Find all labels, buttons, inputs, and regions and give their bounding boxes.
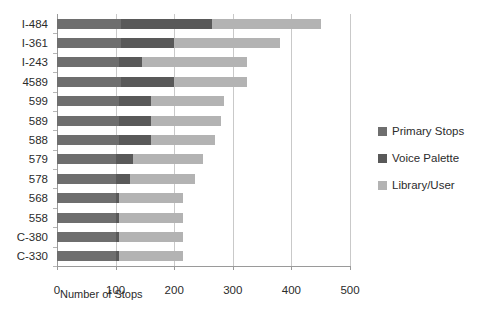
bar-segment [57,19,121,29]
bar-segment [130,174,194,184]
bar-segment [57,38,121,48]
x-axis-tick-label: 400 [271,284,311,297]
bar-segment [116,174,131,184]
bar-row [57,135,350,145]
bar-segment [57,232,116,242]
bar-segment [121,77,174,87]
bar-segment [151,96,224,106]
bar-segment [57,96,119,106]
bar-segment [57,154,116,164]
x-axis-tick [116,266,117,270]
stacked-bar-chart: I-484I-361I-2434589599589588579578568558… [0,0,486,318]
y-axis-category-label: C-330 [17,250,48,262]
x-gridline [350,14,351,266]
y-axis-category-label: 568 [29,192,48,204]
bar-segment [174,38,279,48]
bar-segment [119,232,183,242]
x-axis-tick-label: 300 [213,284,253,297]
legend-swatch-icon [378,181,387,190]
bar-segment [57,77,121,87]
legend-item[interactable]: Voice Palette [378,147,482,169]
x-axis-tick [174,266,175,270]
bar-row [57,96,350,106]
y-axis-category-label: 599 [29,95,48,107]
y-axis-tick [53,53,57,54]
bar-row [57,193,350,203]
bar-segment [121,38,174,48]
bar-segment [57,213,116,223]
bar-row [57,213,350,223]
bar-row [57,232,350,242]
bar-row [57,116,350,126]
plot-area: 0100200300400500 [57,14,350,266]
legend-swatch-icon [378,154,387,163]
y-axis-tick [53,247,57,248]
bar-segment [57,57,119,67]
bar-segment [212,19,320,29]
y-axis-tick [53,266,57,267]
bar-row [57,251,350,261]
bar-segment [119,135,151,145]
y-axis-tick [53,111,57,112]
bar-segment [119,193,183,203]
legend-label: Library/User [392,179,455,191]
y-axis-category-labels: I-484I-361I-2434589599589588579578568558… [0,14,52,266]
y-axis-tick [53,72,57,73]
bar-segment [119,57,142,67]
bar-segment [174,77,247,87]
bar-segment [57,135,119,145]
x-axis-line [57,266,351,267]
y-axis-tick [53,150,57,151]
bar-row [57,77,350,87]
bar-segment [119,213,183,223]
bar-segment [119,251,183,261]
bar-segment [119,96,151,106]
x-axis-tick [57,266,58,270]
y-axis-tick [53,188,57,189]
legend-item[interactable]: Primary Stops [378,120,482,142]
y-axis-tick [53,33,57,34]
legend-swatch-icon [378,127,387,136]
bar-segment [133,154,203,164]
y-axis-category-label: C-380 [17,231,48,243]
y-axis-category-label: 579 [29,153,48,165]
bar-segment [116,154,134,164]
legend-item[interactable]: Library/User [378,174,482,196]
bar-row [57,174,350,184]
x-axis-tick [291,266,292,270]
bar-segment [57,174,116,184]
bar-row [57,57,350,67]
y-axis-category-label: 4589 [22,76,48,88]
y-axis-category-label: I-484 [22,18,48,30]
bar-segment [57,193,116,203]
x-axis-title: Number of Stops [60,288,143,300]
y-axis-category-label: I-243 [22,56,48,68]
legend-label: Voice Palette [392,152,459,164]
x-axis-tick [233,266,234,270]
y-axis-category-label: 589 [29,115,48,127]
bar-segment [57,116,119,126]
x-axis-tick [350,266,351,270]
bar-row [57,19,350,29]
bar-segment [57,251,116,261]
chart-legend: Primary StopsVoice PaletteLibrary/User [378,120,482,201]
bar-row [57,154,350,164]
x-axis-tick-label: 500 [330,284,370,297]
y-axis-category-label: 588 [29,134,48,146]
x-axis-tick-label: 200 [154,284,194,297]
bar-segment [151,116,221,126]
y-axis-tick [53,208,57,209]
y-axis-category-label: 558 [29,212,48,224]
y-axis-tick [53,169,57,170]
bar-segment [151,135,215,145]
y-axis-category-label: I-361 [22,37,48,49]
y-axis-tick [53,130,57,131]
bar-segment [142,57,247,67]
y-axis-tick [53,92,57,93]
bar-row [57,38,350,48]
bar-segment [121,19,212,29]
y-axis-category-label: 578 [29,173,48,185]
bar-segment [119,116,151,126]
legend-label: Primary Stops [392,125,464,137]
y-axis-tick [53,227,57,228]
